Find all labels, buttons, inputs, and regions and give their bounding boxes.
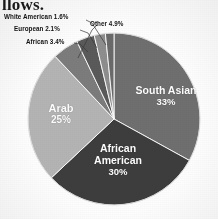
slice-label-south-asian: South Asian 33% xyxy=(128,85,204,107)
slice-label-african-american: African American 30% xyxy=(78,143,158,177)
callout-label-african: African 3.4% xyxy=(26,38,64,45)
chart-page: llows. xyxy=(0,0,218,219)
slice-label-african-american-line1: African xyxy=(78,143,158,155)
callout-label-other: Other 4.9% xyxy=(90,20,123,27)
slice-label-african-american-line2: American xyxy=(78,155,158,167)
slice-label-arab: Arab 25% xyxy=(30,102,92,126)
slice-label-south-asian-pct: 33% xyxy=(128,97,204,108)
pie-chart: White American 1.6% European 2.1% Africa… xyxy=(0,0,218,219)
slice-label-south-asian-name: South Asian xyxy=(128,85,204,97)
slice-label-arab-pct: 25% xyxy=(30,114,92,125)
callout-label-white-american: White American 1.6% xyxy=(4,13,68,20)
callout-label-european: European 2.1% xyxy=(14,25,60,32)
slice-label-arab-name: Arab xyxy=(30,102,92,114)
slice-label-african-american-pct: 30% xyxy=(78,167,158,178)
